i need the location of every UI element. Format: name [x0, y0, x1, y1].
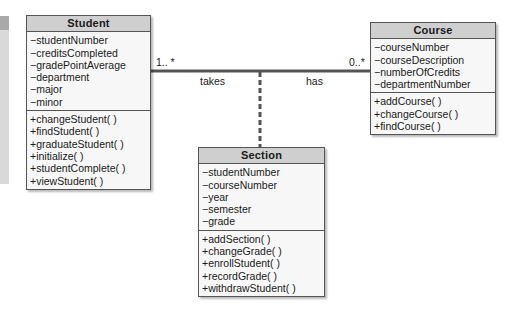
attribute: −courseNumber: [202, 179, 321, 191]
method: +recordGrade( ): [202, 270, 321, 282]
class-section[interactable]: Section −studentNumber −courseNumber −ye…: [198, 147, 325, 297]
role-has: has: [306, 75, 323, 87]
method: +addSection( ): [202, 233, 321, 245]
attribute: −major: [30, 83, 147, 95]
method: +changeStudent( ): [30, 113, 147, 125]
method: +findCourse( ): [374, 120, 492, 132]
attribute: −courseDescription: [374, 54, 492, 66]
method: +graduateStudent( ): [30, 138, 147, 150]
class-course-methods: +addCourse( ) +changeCourse( ) +findCour…: [371, 92, 495, 134]
method: +withdrawStudent( ): [202, 282, 321, 294]
class-section-name: Section: [199, 148, 324, 164]
attribute: −courseNumber: [374, 41, 492, 53]
class-section-attributes: −studentNumber −courseNumber −year −seme…: [199, 164, 324, 229]
attribute: −semester: [202, 203, 321, 215]
attribute: −creditsCompleted: [30, 47, 147, 59]
multiplicity-course: 0..*: [349, 56, 365, 68]
method: +initialize( ): [30, 150, 147, 162]
attribute: −studentNumber: [202, 166, 321, 178]
attribute: −department: [30, 71, 147, 83]
class-course[interactable]: Course −courseNumber −courseDescription …: [370, 22, 496, 135]
class-course-attributes: −courseNumber −courseDescription −number…: [371, 39, 495, 92]
method: +studentComplete( ): [30, 162, 147, 174]
class-student-methods: +changeStudent( ) +findStudent( ) +gradu…: [27, 110, 150, 189]
attribute: −grade: [202, 215, 321, 227]
method: +enrollStudent( ): [202, 257, 321, 269]
attribute: −studentNumber: [30, 34, 147, 46]
attribute: −numberOfCredits: [374, 66, 492, 78]
attribute: −year: [202, 191, 321, 203]
method: +addCourse( ): [374, 95, 492, 107]
class-student-attributes: −studentNumber −creditsCompleted −gradeP…: [27, 32, 150, 110]
class-section-methods: +addSection( ) +changeGrade( ) +enrollSt…: [199, 230, 324, 296]
role-takes: takes: [200, 75, 225, 87]
attribute: −gradePointAverage: [30, 59, 147, 71]
attribute: −departmentNumber: [374, 78, 492, 90]
class-student[interactable]: Student −studentNumber −creditsCompleted…: [26, 15, 151, 190]
method: +viewStudent( ): [30, 175, 147, 187]
method: +findStudent( ): [30, 125, 147, 137]
class-course-name: Course: [371, 23, 495, 39]
class-student-name: Student: [27, 16, 150, 32]
method: +changeCourse( ): [374, 108, 492, 120]
method: +changeGrade( ): [202, 245, 321, 257]
attribute: −minor: [30, 96, 147, 108]
multiplicity-student: 1.. *: [156, 56, 175, 68]
